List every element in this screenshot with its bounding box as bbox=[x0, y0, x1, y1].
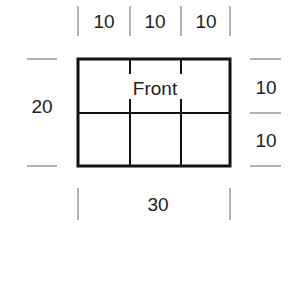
front-panel bbox=[78, 59, 230, 166]
width-total-label: 30 bbox=[147, 194, 168, 215]
column-width-label-3: 10 bbox=[195, 11, 216, 32]
panel-label: Front bbox=[133, 78, 178, 99]
column-width-label-1: 10 bbox=[93, 11, 114, 32]
column-width-label-2: 10 bbox=[144, 11, 165, 32]
row-height-label-1: 10 bbox=[255, 77, 276, 98]
knitting-schematic: 10 10 10 20 10 10 Front 30 bbox=[0, 0, 294, 285]
height-total-label: 20 bbox=[31, 96, 52, 117]
row-height-label-2: 10 bbox=[255, 130, 276, 151]
